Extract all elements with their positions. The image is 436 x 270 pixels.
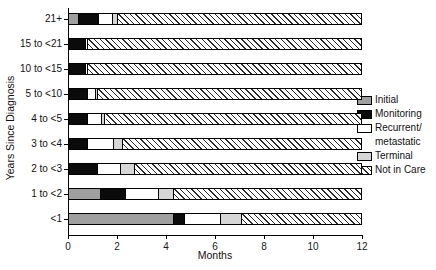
y-tick-label: 1 to <2 <box>0 188 62 200</box>
legend-label: Not in Care <box>375 163 426 177</box>
y-tick-label: 4 to <5 <box>0 113 62 125</box>
bar-segment-monitoring <box>69 164 98 174</box>
x-tick-label: 6 <box>212 241 218 252</box>
bar-segment-not-in-care <box>106 114 362 124</box>
legend-label: Terminal <box>375 149 413 163</box>
y-tick-label: 3 to <4 <box>0 138 62 150</box>
x-tick <box>313 235 314 239</box>
x-tick-label: 10 <box>307 241 318 252</box>
bar-segment-terminal <box>221 214 242 224</box>
bar-segment-initial <box>69 14 79 24</box>
y-tick-label: <1 <box>0 213 62 225</box>
bar-segment-not-in-care <box>88 64 361 74</box>
bar-segment-initial <box>69 189 101 199</box>
bar-row <box>68 88 362 100</box>
bar-segment-recurrent <box>126 189 159 199</box>
bar-row <box>68 213 362 225</box>
bar-segment-not-in-care <box>242 214 361 224</box>
bar-segment-recurrent <box>98 164 121 174</box>
x-tick-label: 2 <box>114 241 120 252</box>
bar-segment-not-in-care <box>135 164 361 174</box>
bar-segment-not-in-care <box>98 89 361 99</box>
x-tick-label: 8 <box>261 241 267 252</box>
bar-segment-recurrent <box>185 214 222 224</box>
x-tick <box>117 235 118 239</box>
bar-segment-not-in-care <box>123 139 361 149</box>
bar-segment-monitoring <box>69 39 86 49</box>
bar-segment-recurrent <box>88 139 114 149</box>
bar-segment-terminal <box>159 189 174 199</box>
stacked-bar-chart: Years Since Diagnosis Months InitialMoni… <box>0 0 436 270</box>
legend-swatch-recurrent <box>357 124 372 133</box>
bar-segment-recurrent <box>88 114 101 124</box>
legend-swatch-terminal <box>357 152 372 161</box>
bar-segment-terminal <box>121 164 134 174</box>
bar-segment-monitoring <box>69 64 86 74</box>
y-tick-label: 10 to <15 <box>0 63 62 75</box>
bar-row <box>68 138 362 150</box>
legend-entry-recurrent: Recurrent/metastatic <box>357 121 426 149</box>
legend-label: Initial <box>375 93 398 107</box>
bar-row <box>68 63 362 75</box>
legend-entry-not-in-care: Not in Care <box>357 163 426 177</box>
legend: InitialMonitoringRecurrent/metastaticTer… <box>357 93 426 177</box>
bar-row <box>68 13 362 25</box>
bar-segment-monitoring <box>69 89 88 99</box>
legend-entry-initial: Initial <box>357 93 426 107</box>
y-tick-label: 5 to <10 <box>0 88 62 100</box>
x-tick <box>362 235 363 239</box>
bar-segment-terminal <box>114 139 123 149</box>
x-tick-label: 4 <box>163 241 169 252</box>
x-tick <box>264 235 265 239</box>
y-tick-label: 2 to <3 <box>0 163 62 175</box>
x-tick-label: 12 <box>356 241 367 252</box>
bar-segment-monitoring <box>69 139 88 149</box>
bar-segment-monitoring <box>79 14 100 24</box>
bar-row <box>68 38 362 50</box>
legend-entry-terminal: Terminal <box>357 149 426 163</box>
x-tick <box>215 235 216 239</box>
bar-segment-monitoring <box>69 114 88 124</box>
legend-label: Monitoring <box>375 107 422 121</box>
x-tick-label: 0 <box>65 241 71 252</box>
legend-label: Recurrent/metastatic <box>375 121 422 149</box>
bar-segment-recurrent <box>88 89 95 99</box>
x-tick <box>68 235 69 239</box>
bar-row <box>68 188 362 200</box>
bar-segment-not-in-care <box>174 189 361 199</box>
bar-segment-monitoring <box>101 189 127 199</box>
x-tick <box>166 235 167 239</box>
y-tick-label: 21+ <box>0 13 62 25</box>
bar-segment-recurrent <box>99 14 112 24</box>
bar-segment-not-in-care <box>88 39 361 49</box>
legend-entry-monitoring: Monitoring <box>357 107 426 121</box>
bar-segment-monitoring <box>174 214 185 224</box>
bar-segment-not-in-care <box>118 14 361 24</box>
y-tick-label: 15 to <21 <box>0 38 62 50</box>
bar-segment-initial <box>69 214 174 224</box>
bar-row <box>68 163 362 175</box>
bar-row <box>68 113 362 125</box>
